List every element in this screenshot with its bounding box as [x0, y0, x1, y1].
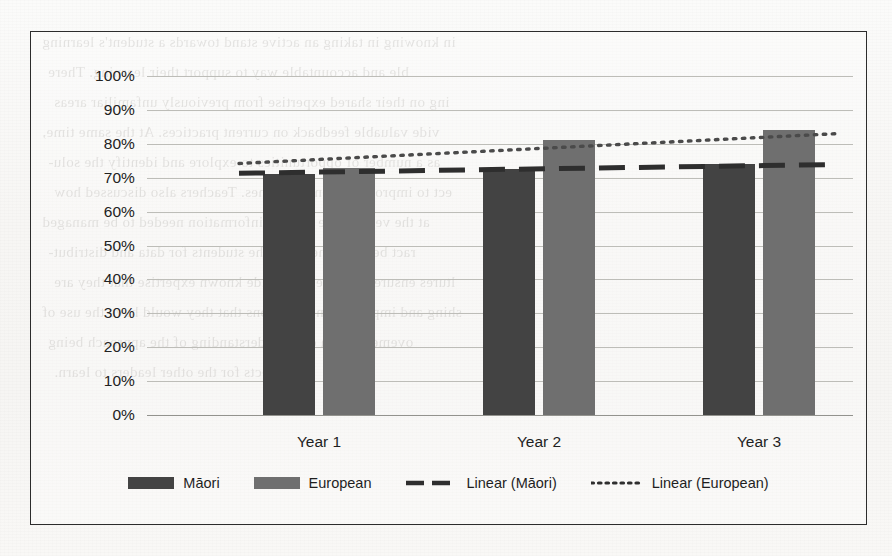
chart-legend: MāoriEuropeanLinear (Māori)Linear (Europ… — [31, 475, 866, 491]
y-tick-label-70: 70% — [69, 169, 135, 187]
y-tick-label-80: 80% — [69, 135, 135, 153]
dashed-line-icon — [406, 477, 458, 489]
scanned-page: in knowing in taking an active stand tow… — [0, 0, 892, 556]
x-tick-label-year-1: Year 1 — [297, 433, 341, 451]
legend-item-2[interactable]: Linear (Māori) — [406, 475, 557, 491]
y-tick-label-10: 10% — [69, 372, 135, 390]
y-tick-label-90: 90% — [69, 101, 135, 119]
legend-swatch-icon — [128, 477, 174, 489]
trendline-maori — [239, 164, 837, 173]
x-tick-label-year-2: Year 2 — [517, 433, 561, 451]
chart-container: 100%90%80%70%60%50%40%30%20%10%0% Year 1… — [30, 31, 867, 525]
legend-label: Linear (Māori) — [467, 475, 557, 491]
legend-item-0[interactable]: Māori — [128, 475, 219, 491]
legend-item-3[interactable]: Linear (European) — [591, 475, 769, 491]
legend-item-1[interactable]: European — [254, 475, 372, 491]
gridline-0 — [147, 415, 853, 416]
trendline-european — [239, 134, 837, 164]
dotted-line-icon — [591, 477, 643, 489]
legend-label: European — [309, 475, 372, 491]
y-tick-label-100: 100% — [69, 67, 135, 85]
y-tick-label-40: 40% — [69, 270, 135, 288]
y-tick-label-30: 30% — [69, 304, 135, 322]
trendlines — [147, 76, 853, 415]
y-tick-label-20: 20% — [69, 338, 135, 356]
y-tick-label-50: 50% — [69, 237, 135, 255]
plot-area: 100%90%80%70%60%50%40%30%20%10%0% Year 1… — [147, 76, 853, 415]
legend-label: Linear (European) — [652, 475, 769, 491]
legend-label: Māori — [183, 475, 219, 491]
y-tick-label-0: 0% — [69, 406, 135, 424]
x-tick-label-year-3: Year 3 — [737, 433, 781, 451]
legend-swatch-icon — [254, 477, 300, 489]
y-tick-label-60: 60% — [69, 203, 135, 221]
